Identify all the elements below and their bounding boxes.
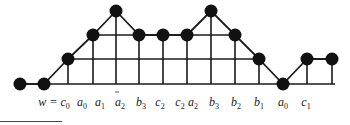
node-label: w = c0 [38,95,69,111]
node-label: b3 [136,95,146,111]
node-label-subscript: 2 [181,102,185,111]
node-label-subscript: 1 [101,102,105,111]
node-label-subscript: 2 [161,102,165,111]
node-label-subscript: 2 [237,102,241,111]
node-label: a1 [95,95,105,111]
footnote-rule [0,121,62,122]
path-node [253,53,266,66]
path-node [157,29,170,42]
path-node [62,53,75,66]
path-node [205,5,218,18]
node-label-subscript: 0 [284,102,288,111]
node-label: b2 [231,95,241,111]
node-label-text: w = c [38,95,65,109]
node-label: c2 [175,95,184,111]
path-node [87,29,100,42]
path-node [133,29,146,42]
node-label: a2 [188,95,198,111]
node-label: a0 [278,95,288,111]
path-node [38,78,51,91]
node-label: c2 [155,95,164,111]
node-label: a2 [115,95,125,111]
path-node [14,78,27,91]
node-label-subscript: 3 [215,102,219,111]
node-label-subscript: 0 [66,102,70,111]
node-label: c1 [301,95,310,111]
node-label: b1 [254,95,264,111]
node-label-subscript: 0 [83,102,87,111]
path-node [326,53,339,66]
node-label-subscript: 1 [260,102,264,111]
path-node [181,29,194,42]
path-node [110,5,123,18]
node-label-subscript: 1 [307,102,311,111]
node-label-subscript: 2 [121,102,125,111]
path-node [301,53,314,66]
node-label-subscript: 3 [142,102,146,111]
node-label-subscript: 2 [194,102,198,111]
node-label: a0 [77,95,87,111]
node-label: b3 [209,95,219,111]
path-node [277,78,290,91]
path-node [229,29,242,42]
